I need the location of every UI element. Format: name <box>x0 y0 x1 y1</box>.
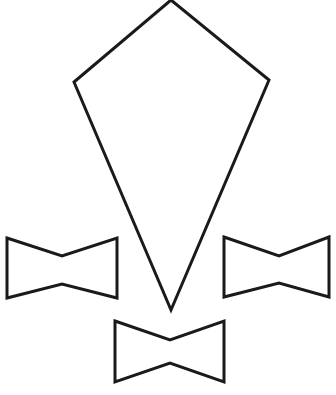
shapes-figure <box>0 0 336 395</box>
canvas-background <box>0 0 336 395</box>
drawing-canvas <box>0 0 336 395</box>
